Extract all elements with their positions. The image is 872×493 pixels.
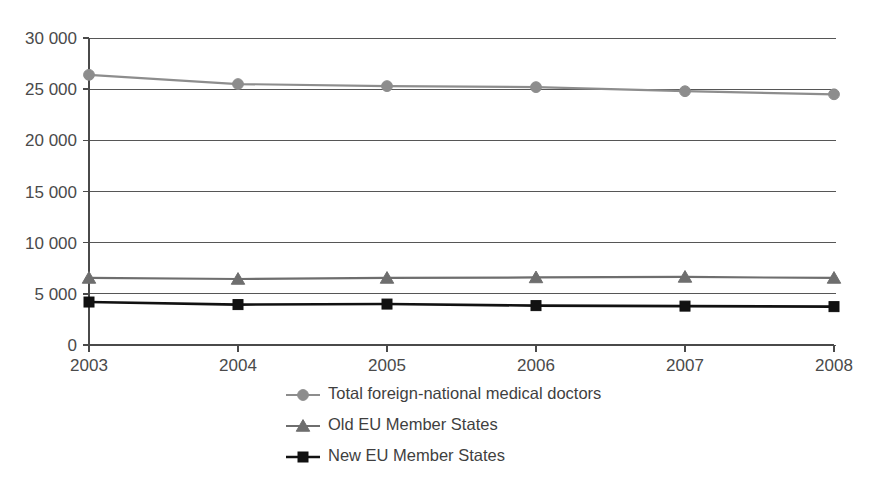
legend-item-old[interactable]: Old EU Member States (286, 415, 498, 433)
line-chart: 05 00010 00015 00020 00025 00030 000 200… (0, 0, 872, 493)
x-axis-tick-label: 2007 (666, 356, 704, 375)
data-point-marker (233, 79, 244, 90)
legend-marker-icon (298, 390, 309, 401)
legend-item-total[interactable]: Total foreign-national medical doctors (286, 384, 601, 402)
data-point-marker (680, 301, 690, 311)
x-axis-tick-labels: 200320042005200620072008 (70, 356, 853, 375)
data-point-marker (84, 297, 94, 307)
legend-item-label: New EU Member States (328, 446, 505, 464)
y-axis-tick-labels: 05 00010 00015 00020 00025 00030 000 (25, 29, 77, 355)
y-axis-tick-label: 10 000 (25, 234, 77, 253)
series-line-new (89, 302, 834, 307)
data-point-marker (531, 301, 541, 311)
y-axis-tick-label: 0 (68, 336, 77, 355)
legend-marker-icon (298, 452, 308, 462)
data-point-marker (829, 89, 840, 100)
chart-legend: Total foreign-national medical doctorsOl… (286, 384, 601, 464)
series-old (82, 271, 840, 285)
y-axis-tick-label: 5 000 (34, 285, 77, 304)
legend-item-label: Old EU Member States (328, 415, 498, 433)
series-line-total (89, 75, 834, 94)
data-point-marker (382, 299, 392, 309)
gridlines (89, 38, 836, 345)
data-point-marker (382, 81, 393, 92)
y-axis-tick-label: 30 000 (25, 29, 77, 48)
y-axis-tick-label: 25 000 (25, 80, 77, 99)
x-axis-tick-label: 2005 (368, 356, 406, 375)
legend-item-new[interactable]: New EU Member States (286, 446, 505, 464)
x-axis (89, 345, 834, 352)
data-point-marker (680, 86, 691, 97)
x-axis-tick-label: 2006 (517, 356, 555, 375)
series-new (84, 297, 839, 312)
series-lines (82, 69, 840, 311)
y-axis-tick-label: 15 000 (25, 183, 77, 202)
chart-container: 05 00010 00015 00020 00025 00030 000 200… (0, 0, 872, 493)
data-point-marker (84, 69, 95, 80)
data-point-marker (233, 300, 243, 310)
x-axis-tick-label: 2003 (70, 356, 108, 375)
x-axis-tick-label: 2008 (815, 356, 853, 375)
data-point-marker (531, 82, 542, 93)
series-total (84, 69, 840, 99)
data-point-marker (829, 302, 839, 312)
x-axis-tick-label: 2004 (219, 356, 257, 375)
y-axis-tick-label: 20 000 (25, 131, 77, 150)
legend-item-label: Total foreign-national medical doctors (328, 384, 601, 402)
series-line-old (89, 277, 834, 279)
